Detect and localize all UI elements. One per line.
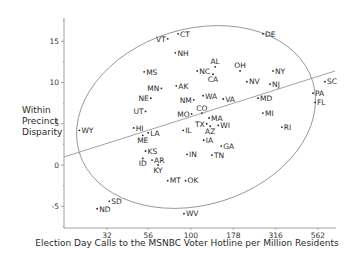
point-marker [312,92,314,94]
point-label: ND [99,205,111,214]
point-label: UT [133,107,143,116]
y-tick-label: -5 [52,202,60,211]
point-marker [185,180,187,182]
data-point: CA [208,73,219,84]
point-marker [133,127,135,129]
point-marker [183,213,185,215]
point-label: IL [185,126,192,135]
point-marker [269,83,271,85]
point-label: PA [315,89,325,98]
overlays [54,0,339,237]
point-label: AK [178,82,189,91]
point-marker [196,70,198,72]
point-label: WA [205,92,218,101]
data-point: CO [196,104,207,114]
point-label: SD [111,197,122,206]
point-label: RI [284,123,291,132]
data-point: OH [234,61,246,71]
point-marker [202,95,204,97]
data-point: IL [182,126,192,135]
point-marker [161,87,163,89]
point-marker [167,180,169,182]
data-point: MS [143,68,157,77]
point-label: LA [150,129,160,138]
point-label: FL [317,98,326,107]
trend-line [64,71,335,157]
point-label: DE [265,30,276,39]
y-tick-label: 10 [49,78,59,87]
point-label: SC [327,77,337,86]
point-marker [217,125,219,127]
point-label: MS [146,68,157,77]
data-point: WA [202,92,218,101]
point-label: WV [186,209,199,218]
data-point: TN [211,151,224,160]
data-point: NV [246,77,261,86]
point-marker [203,139,205,141]
point-label: OH [234,61,246,70]
point-label: MN [147,84,159,93]
point-marker [145,110,147,112]
data-point: WY [79,126,94,135]
data-point: GA [220,142,235,151]
point-label: CA [208,75,219,84]
point-label: CO [196,104,207,113]
data-point: NY [272,67,286,76]
point-marker [206,123,208,125]
data-point: AK [175,82,189,91]
point-marker [191,113,193,115]
data-point: VA [222,95,236,104]
point-marker [281,126,283,128]
data-point: MI [262,109,274,118]
point-label: NE [138,94,149,103]
point-marker [167,38,169,40]
y-tick-label: 0 [54,161,59,170]
point-label: CT [180,30,190,39]
point-label: AZ [205,127,215,136]
point-label: NV [249,77,261,86]
point-label: ID [139,159,147,168]
point-marker [145,150,147,152]
point-marker [208,117,210,119]
point-label: VA [225,95,236,104]
data-point: NE [138,94,151,103]
data-point: LA [147,129,160,138]
point-marker [151,159,153,161]
point-marker [220,145,222,147]
point-label: NH [177,49,188,58]
data-point: AZ [205,125,215,136]
point-label: NM [180,96,192,105]
data-point: RI [281,123,291,132]
data-point: MD [257,94,272,103]
point-marker [272,70,274,72]
point-label: WI [220,121,230,130]
point-label: WY [81,126,93,135]
y-axis-label-line: Disparity [22,127,62,138]
point-label: HI [136,124,144,133]
data-point: WV [183,209,199,218]
data-point: OK [185,176,200,185]
point-marker [182,129,184,131]
data-point: HI [133,124,144,133]
data-point: ME [137,134,148,145]
point-label: TX [194,120,205,129]
point-label: IN [189,150,197,159]
data-point: CT [177,30,190,39]
y-tick-label: 15 [49,37,59,46]
data-point: AR [151,156,164,165]
point-label: ME [137,136,148,145]
point-label: AL [210,57,220,66]
point-marker [175,85,177,87]
data-point: NH [174,49,188,58]
data-point: NJ [269,80,280,89]
point-label: MD [260,94,272,103]
point-marker [222,98,224,100]
point-label: MT [170,176,181,185]
point-label: AR [154,156,164,165]
y-axis-label-line: Precinct [22,116,62,127]
data-point: KS [145,147,158,156]
confidence-ellipse [54,0,339,237]
point-marker [257,97,259,99]
point-label: VT [156,35,166,44]
data-point: NM [180,96,195,105]
